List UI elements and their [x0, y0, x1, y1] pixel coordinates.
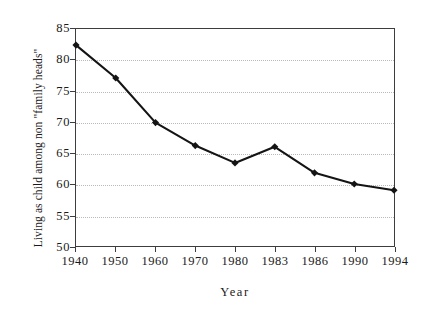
- x-axis-tick: [115, 247, 116, 252]
- series-line: [76, 45, 394, 190]
- line-chart: Living as child among non "family heads"…: [0, 0, 447, 323]
- x-axis-tick: [195, 247, 196, 252]
- data-point-marker: [231, 159, 238, 166]
- x-axis-ticks: [75, 247, 395, 253]
- x-axis-tick-label: 1994: [365, 254, 425, 268]
- data-series: [76, 29, 394, 246]
- plot-area: [75, 28, 395, 247]
- x-axis-tick: [75, 247, 76, 252]
- data-point-marker: [351, 180, 358, 187]
- y-axis-tick-label: 65: [44, 147, 70, 159]
- x-axis-tick: [395, 247, 396, 252]
- y-axis-tick-labels: 5055606570758085: [42, 0, 70, 323]
- y-axis-tick-label: 75: [44, 85, 70, 97]
- y-axis-tick-label: 60: [44, 178, 70, 190]
- x-axis-tick: [155, 247, 156, 252]
- y-axis-tick-label: 70: [44, 116, 70, 128]
- data-point-marker: [390, 187, 397, 194]
- x-axis-tick: [235, 247, 236, 252]
- y-axis-tick-label: 50: [44, 241, 70, 253]
- x-axis-tick-labels: 194019501960197019801983198619901994: [75, 254, 395, 270]
- x-axis-tick: [315, 247, 316, 252]
- x-axis-tick: [355, 247, 356, 252]
- y-axis-tick-label: 80: [44, 53, 70, 65]
- x-axis-title: Year: [75, 285, 395, 300]
- x-axis-tick: [275, 247, 276, 252]
- series-markers: [72, 42, 397, 194]
- y-axis-tick-label: 55: [44, 210, 70, 222]
- y-axis-tick-label: 85: [44, 22, 70, 34]
